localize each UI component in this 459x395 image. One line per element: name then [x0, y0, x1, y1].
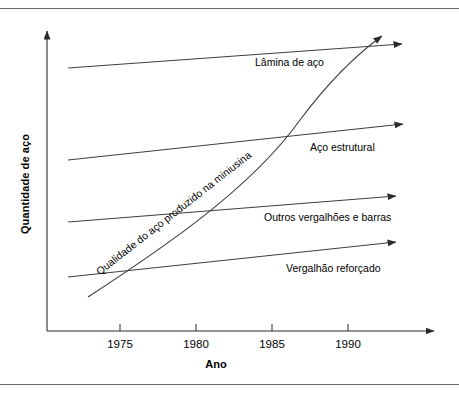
y-axis-title: Quantidade de aço	[19, 124, 31, 244]
x-tick-label-1985: 1985	[249, 338, 295, 350]
x-axis-title: Ano	[186, 358, 246, 370]
x-tick-label-1980: 1980	[173, 338, 219, 350]
series-label-aco-estrutural: Aço estrutural	[310, 141, 375, 153]
series-label-lamina-de-aco: Lâmina de aço	[255, 56, 324, 68]
series-label-vergalhao-reforcado: Vergalhão reforçado	[286, 262, 381, 274]
series-label-outros-vergalhoes-e-barras: Outros vergalhões e barras	[264, 211, 391, 223]
x-tick-label-1990: 1990	[325, 338, 371, 350]
x-tick-label-1975: 1975	[97, 338, 143, 350]
plot-area	[0, 0, 459, 395]
series-line-lamina-de-aco	[68, 44, 402, 68]
chart-figure: Quantidade de aço Ano 1975 1980 1985 199…	[0, 0, 459, 395]
